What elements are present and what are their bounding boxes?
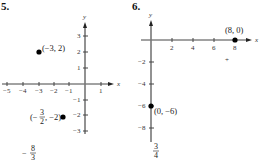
y-tick: 3 [77,32,81,40]
graphs-canvas: 5. x y −5 −4 −3 −2 −1 1 [0,0,263,161]
point-label: (−3, 2) [42,43,65,53]
y-axis-label: y [148,11,153,19]
graph-6-number: 6. [132,0,141,12]
point-label: (0, −6) [154,106,177,116]
x-tick: 6 [212,44,216,52]
y-tick: −2 [138,58,146,66]
point-frac-num: 3 [40,108,44,117]
point-neg3-2 [36,49,41,54]
x-tick: −4 [19,87,27,95]
y-tick: −2 [73,111,81,119]
x-axis-label: x [116,80,121,88]
x-axis-arrow-icon [246,38,252,42]
y-axis-arrow-icon [83,22,87,28]
y-axis-label: y [82,13,87,21]
x-tick: 4 [191,44,195,52]
y-tick: −3 [73,127,81,135]
x-tick: −3 [35,87,43,95]
annotation-num: 3 [154,142,158,151]
annotation-num: 8 [31,144,35,153]
x-tick: 8 [233,44,237,52]
y-tick: −4 [138,80,146,88]
x-tick: 1 [99,87,103,95]
graph-5: 5. x y −5 −4 −3 −2 −1 1 [1,0,121,161]
annotation-den: 3 [31,153,35,161]
x-tick: 2 [170,44,174,52]
x-axis-label: x [254,36,259,44]
point-label: (8, 0) [225,25,244,35]
x-axis-arrow-icon [108,82,114,86]
point-8-0 [232,37,237,42]
annotation-sign: − [22,149,27,158]
x-tick: −1 [65,87,73,95]
point-frac-den: 2 [40,117,44,126]
y-tick: −6 [138,102,146,110]
cursor-icon: + [225,56,229,64]
x-tick: −2 [50,87,58,95]
y-axis-arrow-icon [149,20,153,26]
y-tick: −8 [138,124,146,132]
y-tick: 1 [77,64,81,72]
graph-6: 6. x y 2 4 6 8 −2 −4 −6 −8 (8, [132,0,259,160]
point-neg1.5-neg2 [60,114,65,119]
y-tick: 2 [77,48,81,56]
y-tick: −1 [73,96,81,104]
point-0-neg6 [148,103,153,108]
graph-5-number: 5. [1,0,10,12]
point-label-close: , −2) [45,112,61,122]
point-label-open: (− [30,112,38,122]
x-tick: −5 [3,87,11,95]
annotation-den: 4 [154,151,158,160]
